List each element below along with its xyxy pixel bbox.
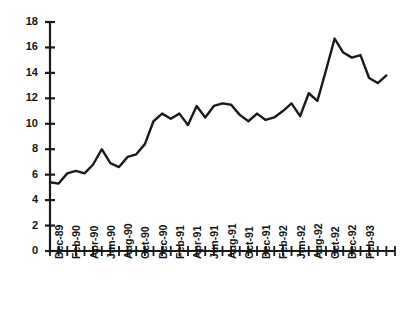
x-axis-tick-label: Dec-90 — [158, 225, 169, 259]
y-axis-tick-label: 10 — [16, 118, 38, 129]
x-axis-tick-label: Aug-90 — [123, 223, 134, 259]
x-axis-tick-label: Aug-92 — [313, 223, 324, 259]
y-axis-tick-label: 2 — [16, 220, 38, 231]
chart-plot-area — [0, 0, 403, 323]
y-axis — [45, 22, 55, 251]
x-axis-ticks — [50, 246, 395, 256]
y-axis-tick-label: 18 — [16, 16, 38, 27]
x-axis-tick-label: Feb-92 — [278, 225, 289, 259]
x-axis-tick-label: Dec-91 — [261, 225, 272, 259]
x-axis-tick-label: Feb-93 — [365, 225, 376, 259]
y-axis-tick-label: 8 — [16, 143, 38, 154]
y-axis-tick-label: 12 — [16, 92, 38, 103]
x-axis-tick-label: Oct-90 — [140, 226, 151, 259]
x-axis — [50, 246, 395, 256]
x-axis-tick-label: Apr-90 — [89, 226, 100, 259]
x-axis-tick-label: Jun-90 — [106, 225, 117, 259]
x-axis-tick-label: Feb-90 — [71, 225, 82, 259]
y-axis-tick-label: 14 — [16, 67, 38, 78]
x-axis-tick-label: Apr-91 — [192, 226, 203, 259]
x-axis-tick-label: Oct-92 — [330, 226, 341, 259]
data-series-line — [50, 39, 386, 184]
x-axis-tick-label: Feb-91 — [175, 225, 186, 259]
y-axis-tick-label: 4 — [16, 194, 38, 205]
x-axis-tick-label: Dec-89 — [54, 225, 65, 259]
y-axis-tick-label: 0 — [16, 245, 38, 256]
line-chart: 024681012141618 Dec-89Feb-90Apr-90Jun-90… — [0, 0, 403, 323]
y-axis-tick-label: 6 — [16, 169, 38, 180]
x-axis-tick-label: Jun-91 — [209, 225, 220, 259]
x-axis-tick-label: Jun-92 — [296, 225, 307, 259]
x-axis-tick-label: Oct-91 — [244, 226, 255, 259]
x-axis-tick-label: Dec-92 — [347, 225, 358, 259]
y-axis-tick-label: 16 — [16, 41, 38, 52]
x-axis-tick-label: Aug-91 — [227, 223, 238, 259]
